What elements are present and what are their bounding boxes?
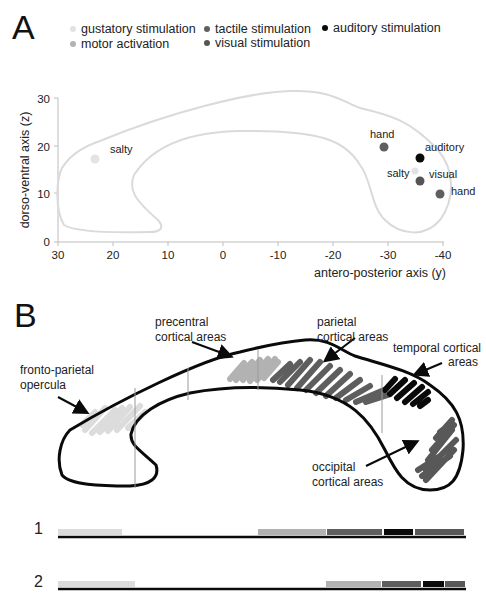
y-tick-label: 30	[37, 93, 50, 105]
y-ticks	[54, 98, 58, 242]
bar-1-segment-precentral	[258, 529, 326, 535]
point-salty-posterior	[412, 168, 419, 175]
point-hand-upper	[380, 143, 389, 152]
point-auditory	[416, 154, 425, 163]
bar-1-segment-fronto-parietal	[58, 529, 122, 535]
label-fronto-parietal-1: fronto-parietal	[20, 363, 94, 377]
scatter-plot: 30 20 10 0 -10 -20 -30 -40 0 10 20 30 an…	[0, 0, 486, 290]
x-tick-labels: 30 20 10 0 -10 -20 -30 -40	[52, 249, 452, 261]
bar-2-segment-parietal	[382, 581, 421, 587]
label-precentral-1: precentral	[155, 315, 208, 329]
x-tick-label: 20	[107, 249, 120, 261]
arrow-temporal	[416, 363, 442, 374]
point-label: hand	[370, 128, 394, 140]
x-tick-label: -40	[435, 249, 452, 261]
label-temporal-1: temporal cortical	[393, 341, 481, 355]
point-hand-lower	[436, 190, 445, 199]
point-label: hand	[451, 185, 475, 197]
y-tick-labels: 0 10 20 30	[37, 93, 50, 248]
label-parietal-2: cortical areas	[317, 330, 388, 344]
arrow-fronto-parietal	[58, 397, 86, 412]
bar-1-segment-occipital	[415, 529, 464, 535]
bar-2-segment-fronto-parietal	[58, 581, 135, 587]
bar-1-segment-temporal	[384, 529, 413, 535]
bar-2-segment-precentral	[326, 581, 381, 587]
y-tick-label: 20	[37, 141, 50, 153]
x-tick-label: 10	[162, 249, 175, 261]
bar-2	[58, 581, 466, 589]
x-tick-label: 30	[52, 249, 65, 261]
arrow-precentral	[192, 342, 230, 356]
point-salty-anterior	[91, 155, 100, 164]
cortex-diagram: fronto-parietal opercula precentral cort…	[0, 290, 486, 520]
cortex-outline	[57, 91, 451, 232]
label-precentral-2: cortical areas	[155, 330, 226, 344]
point-label: salty	[387, 167, 410, 179]
label-occipital-2: cortical areas	[312, 475, 383, 489]
x-tick-label: -10	[270, 249, 287, 261]
label-occipital-1: occipital	[312, 460, 355, 474]
point-label: visual	[429, 168, 457, 180]
hatch-temporal	[385, 379, 428, 406]
x-tick-label: -20	[325, 249, 342, 261]
hatch-precentral	[230, 359, 278, 381]
region-bars	[0, 512, 486, 602]
y-tick-label: 0	[44, 236, 50, 248]
point-label: auditory	[425, 141, 465, 153]
x-axis-label: antero-posterior axis (y)	[314, 266, 446, 280]
bar-1	[58, 529, 466, 537]
bar-2-segment-occipital	[445, 581, 465, 587]
x-tick-label: 0	[220, 249, 226, 261]
label-fronto-parietal-2: opercula	[20, 378, 66, 392]
bar-1-segment-parietal	[327, 529, 382, 535]
bar-2-segment-temporal	[423, 581, 444, 587]
label-parietal-1: parietal	[317, 315, 356, 329]
hatch-fronto-parietal	[82, 406, 145, 433]
y-axis-label: dorso-ventral axis (z)	[18, 112, 32, 229]
x-tick-label: -30	[380, 249, 397, 261]
label-temporal-2: areas	[448, 355, 478, 369]
point-label: salty	[110, 143, 133, 155]
point-visual	[416, 177, 425, 186]
x-ticks	[58, 242, 443, 246]
y-tick-label: 10	[37, 188, 50, 200]
hatch-occipital	[418, 420, 456, 480]
